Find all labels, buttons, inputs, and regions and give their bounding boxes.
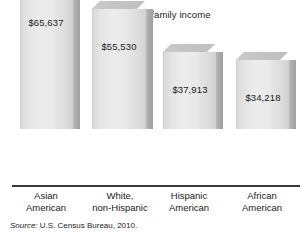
source-prefix: Source: [10,221,38,230]
value-label-white-non-hispanic: $55,530 [85,41,153,52]
category-label-line-1: African [227,190,297,202]
bar-top-face [92,1,145,9]
category-label-line-1: White, [82,190,158,202]
x-axis-line [12,185,300,187]
category-label-line-2: non-Hispanic [82,202,158,214]
category-label-white-non-hispanic: White, non-Hispanic [82,190,158,213]
category-label-hispanic-american: Hispanic American [154,190,224,213]
category-label-asian-american: Asian American [12,190,80,213]
bar-front-face [92,9,146,129]
category-label-line-2: American [154,202,224,214]
category-label-african-american: African American [227,190,297,213]
category-label-line-1: Hispanic [154,190,224,202]
category-label-line-2: American [12,202,80,214]
category-label-line-1: Asian [12,190,80,202]
bar-top-face [163,44,215,52]
chart-figure: Annual family income $65,637 $55,530 $37… [0,0,307,242]
category-label-line-2: American [227,202,297,214]
value-label-asian-american: $65,637 [12,17,80,28]
bar-side-face [145,9,153,129]
source-text: U.S. Census Bureau, 2010. [38,221,138,230]
bar-white-non-hispanic [92,1,145,129]
bar-top-face [236,52,288,60]
plot-area: $65,637 $55,530 $37,913 $34,218 [0,0,307,186]
value-label-hispanic-american: $37,913 [156,84,224,95]
source-note: Source: U.S. Census Bureau, 2010. [10,221,137,230]
bar-african-american [236,52,288,129]
value-label-african-american: $34,218 [229,92,297,103]
